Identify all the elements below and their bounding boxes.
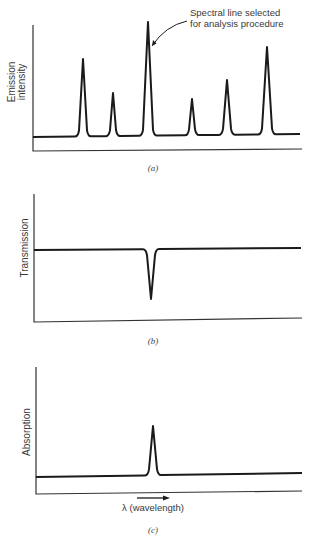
spectroscopy-figure: Emission intensity Spectral line selecte… (0, 0, 312, 540)
panel-c-ylabel: Absorption (21, 408, 32, 456)
panel-a-caption: (a) (148, 163, 159, 173)
panel-a-emission-chart: Emission intensity Spectral line selecte… (6, 7, 302, 173)
annotation-line2: for analysis procedure (190, 18, 283, 29)
annotation-line1: Spectral line selected (190, 7, 280, 18)
panel-b-caption: (b) (148, 336, 159, 346)
panel-a-emission-curve (33, 22, 300, 137)
panel-c-caption: (c) (148, 525, 158, 535)
panel-b-transmission-curve (34, 248, 301, 299)
panel-b-ylabel: Transmission (19, 218, 30, 277)
panel-c-xlabel: λ (wavelength) (122, 502, 184, 513)
panel-b-axes (34, 194, 302, 322)
panel-b-transmission-chart: Transmission (b) (19, 194, 302, 346)
panel-c-absorption-chart: Absorption λ (wavelength) (c) (21, 367, 302, 535)
panel-a-ylabel-line2: intensity (16, 64, 27, 101)
annotation-arrow-icon (152, 21, 187, 46)
wavelength-arrowhead-icon (163, 496, 170, 501)
panel-c-absorption-curve (36, 426, 302, 477)
